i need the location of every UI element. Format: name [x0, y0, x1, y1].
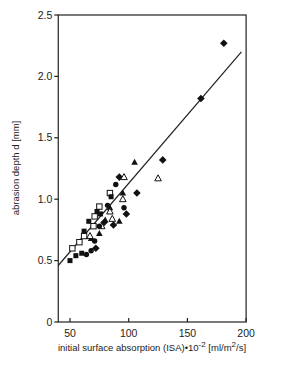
data-point-square-open — [91, 224, 96, 229]
y-tick-label: 2.5 — [38, 9, 53, 21]
y-axis-label: abrasion depth d [mm] — [10, 121, 21, 216]
data-point-triangle-filled — [96, 230, 103, 236]
x-tick-label: 150 — [179, 327, 197, 339]
data-point-triangle-open — [87, 233, 94, 239]
x-axis-ticks: 50100150200 — [64, 318, 255, 339]
data-point-square-open — [70, 246, 75, 251]
data-point-diamond-filled — [123, 210, 131, 218]
data-point-circle-filled — [92, 238, 97, 243]
data-point-square-open — [77, 239, 82, 244]
data-point-circle-filled — [113, 182, 118, 187]
data-point-circle-filled — [97, 224, 102, 229]
data-point-circle-filled — [88, 248, 93, 253]
data-point-square-open — [97, 204, 102, 209]
data-point-square-filled — [86, 219, 91, 224]
data-point-diamond-filled — [110, 221, 118, 229]
x-tick-label: 200 — [237, 327, 255, 339]
data-point-triangle-open — [109, 215, 116, 221]
data-point-circle-filled — [105, 203, 110, 208]
data-point-square-filled — [82, 229, 87, 234]
data-point-triangle-open — [155, 175, 162, 181]
data-point-square-filled — [73, 253, 78, 258]
data-point-triangle-open — [120, 196, 127, 202]
y-tick-label: 1.5 — [38, 131, 53, 143]
data-point-triangle-filled — [102, 217, 109, 223]
data-point-square-filled — [79, 251, 84, 256]
data-point-square-open — [92, 214, 97, 219]
data-points — [68, 39, 228, 263]
data-point-square-open — [81, 233, 86, 238]
data-point-diamond-filled — [159, 156, 167, 164]
y-axis-ticks: 00.51.01.52.02.5 — [38, 9, 59, 328]
y-tick-label: 0 — [46, 316, 52, 328]
data-point-triangle-filled — [116, 218, 123, 224]
plot-border — [58, 15, 246, 322]
data-point-diamond-filled — [220, 39, 228, 47]
plot-frame — [58, 15, 246, 322]
y-tick-label: 1.0 — [38, 193, 53, 205]
x-tick-label: 50 — [64, 327, 76, 339]
y-tick-label: 2.0 — [38, 70, 53, 82]
x-axis-label: initial surface absorption (ISA)•10-2 [m… — [58, 340, 246, 353]
data-point-square-filled — [68, 258, 73, 263]
y-tick-label: 0.5 — [38, 254, 53, 266]
data-point-triangle-filled — [131, 159, 138, 165]
data-point-circle-filled — [121, 205, 126, 210]
x-tick-label: 100 — [120, 327, 138, 339]
data-point-square-filled — [95, 209, 100, 214]
data-point-diamond-filled — [133, 189, 141, 197]
data-point-circle-filled — [84, 252, 89, 257]
data-point-square-filled — [109, 194, 114, 199]
scatter-chart: 00.51.01.52.02.5 50100150200 abrasion de… — [0, 0, 281, 367]
